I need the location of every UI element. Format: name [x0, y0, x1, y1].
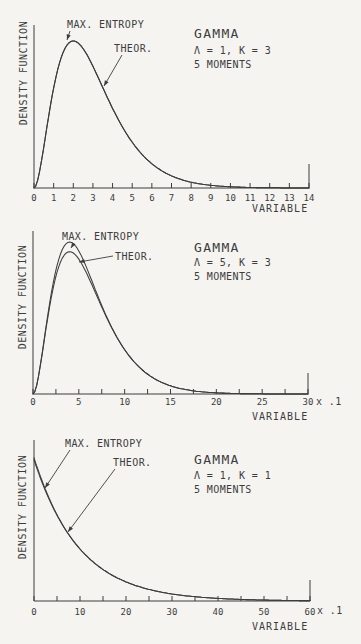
plot-1: 01234567891011121314 DENSITY FUNCTION MA… [0, 0, 361, 215]
svg-text:30: 30 [167, 607, 178, 617]
plot-2: 051015202530 DENSITY FUNCTION MAX. ENTRO… [0, 215, 361, 430]
svg-text:12: 12 [264, 193, 275, 203]
plot1-canvas: 01234567891011121314 [0, 0, 361, 215]
plot1-max-entropy-label: MAX. ENTROPY [67, 20, 144, 30]
svg-text:30: 30 [303, 397, 314, 407]
plot3-moments: 5 MOMENTS [194, 485, 252, 495]
svg-text:2: 2 [71, 193, 76, 203]
svg-text:6: 6 [149, 193, 154, 203]
svg-text:14: 14 [304, 193, 315, 203]
svg-text:40: 40 [213, 607, 224, 617]
plot2-title: GAMMA [194, 242, 240, 254]
svg-text:8: 8 [188, 193, 193, 203]
svg-text:3: 3 [90, 193, 95, 203]
gamma-density-figure: 01234567891011121314 DENSITY FUNCTION MA… [0, 0, 361, 644]
svg-text:20: 20 [211, 397, 222, 407]
plot2-x-scale-note: x .1 [316, 397, 342, 407]
svg-text:20: 20 [121, 607, 132, 617]
svg-text:15: 15 [165, 397, 176, 407]
plot3-canvas: 0102030405060 [0, 430, 361, 644]
plot1-moments: 5 MOMENTS [194, 60, 252, 70]
plot2-max-entropy-label: MAX. ENTROPY [62, 232, 139, 242]
plot3-max-entropy-label: MAX. ENTROPY [65, 439, 142, 449]
plot1-x-axis-label: VARIABLE [252, 204, 308, 214]
svg-text:7: 7 [169, 193, 174, 203]
svg-text:0: 0 [31, 607, 36, 617]
plot1-theor-label: THEOR. [114, 44, 153, 54]
plot1-y-axis-label: DENSITY FUNCTION [18, 17, 30, 129]
svg-text:25: 25 [257, 397, 268, 407]
svg-text:10: 10 [75, 607, 86, 617]
plot-3: 0102030405060 DENSITY FUNCTION MAX. ENTR… [0, 430, 361, 644]
plot1-title: GAMMA [194, 28, 240, 40]
plot2-canvas: 051015202530 [0, 215, 361, 430]
plot2-params: Λ = 5, K = 3 [194, 258, 271, 268]
svg-text:50: 50 [259, 607, 270, 617]
svg-text:5: 5 [76, 397, 81, 407]
plot2-moments: 5 MOMENTS [194, 272, 252, 282]
plot3-x-scale-note: x .1 [317, 606, 343, 616]
svg-text:4: 4 [110, 193, 115, 203]
plot2-x-axis-label: VARIABLE [252, 412, 308, 422]
plot3-x-axis-label: VARIABLE [252, 622, 308, 632]
plot3-title: GAMMA [194, 454, 240, 466]
plot3-params: Λ = 1, K = 1 [194, 471, 271, 481]
plot2-theor-label: THEOR. [115, 252, 154, 262]
svg-text:5: 5 [130, 193, 135, 203]
svg-text:11: 11 [245, 193, 256, 203]
svg-text:10: 10 [119, 397, 130, 407]
svg-text:9: 9 [208, 193, 213, 203]
svg-text:60: 60 [305, 607, 316, 617]
plot1-params: Λ = 1, K = 3 [194, 46, 271, 56]
plot3-y-axis-label: DENSITY FUNCTION [17, 451, 29, 563]
plot2-y-axis-label: DENSITY FUNCTION [17, 241, 29, 353]
svg-text:0: 0 [31, 193, 36, 203]
svg-text:13: 13 [284, 193, 295, 203]
plot3-theor-label: THEOR. [113, 458, 152, 468]
svg-text:10: 10 [225, 193, 236, 203]
svg-text:1: 1 [51, 193, 56, 203]
svg-text:0: 0 [30, 397, 35, 407]
